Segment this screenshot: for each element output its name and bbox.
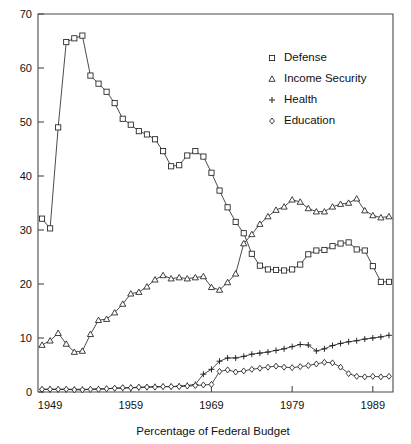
data-point-marker (128, 385, 133, 391)
data-point-marker (257, 350, 263, 356)
data-point-marker (370, 212, 376, 217)
legend-item-education[interactable]: Education (270, 114, 335, 126)
data-point-marker (386, 279, 391, 284)
data-point-marker (128, 122, 133, 127)
y-tick-label: 10 (20, 332, 32, 344)
data-point-marker (289, 344, 295, 350)
data-point-marker (249, 351, 255, 357)
data-point-marker (386, 332, 392, 338)
data-point-marker (354, 247, 359, 252)
data-point-marker (48, 226, 53, 231)
data-point-marker (39, 342, 45, 347)
data-series-layer (39, 33, 392, 393)
data-point-marker (249, 251, 254, 256)
data-point-marker (87, 331, 93, 336)
data-point-marker (362, 207, 368, 212)
data-point-marker (370, 264, 375, 269)
data-point-marker (321, 346, 327, 352)
legend-item-defense[interactable]: Defense (269, 51, 326, 63)
data-point-marker (290, 267, 295, 272)
data-point-marker (161, 384, 166, 390)
data-point-marker (217, 188, 222, 193)
data-point-marker (362, 336, 368, 342)
legend-item-income-security[interactable]: Income Security (269, 72, 367, 84)
y-tick-label: 20 (20, 278, 32, 290)
data-point-marker (185, 153, 190, 158)
data-point-marker (136, 129, 141, 134)
data-point-marker (137, 384, 142, 390)
data-point-marker (298, 262, 303, 267)
data-point-marker (338, 340, 344, 346)
chart-container: 010203040506070 19491959196919791989 Def… (0, 0, 411, 444)
data-point-marker (64, 39, 69, 44)
data-point-marker (96, 81, 101, 86)
data-point-marker (273, 207, 279, 212)
data-point-marker (177, 163, 182, 168)
data-point-marker (225, 205, 230, 210)
data-point-marker (354, 196, 360, 201)
data-point-marker (79, 348, 85, 353)
data-point-marker (249, 366, 254, 372)
data-point-marker (72, 36, 77, 41)
y-tick-label: 0 (26, 386, 32, 398)
data-point-marker (152, 277, 158, 282)
x-tick-label: 1969 (199, 399, 223, 411)
data-point-marker (362, 248, 367, 253)
data-point-marker (200, 273, 206, 278)
data-point-marker (362, 374, 367, 380)
x-tick-label: 1979 (280, 399, 304, 411)
data-point-marker (306, 363, 311, 369)
data-point-marker (354, 338, 360, 344)
line-chart-svg: 010203040506070 19491959196919791989 Def… (0, 0, 411, 444)
y-tick-label: 60 (20, 62, 32, 74)
data-point-marker (241, 231, 246, 236)
data-point-marker (281, 346, 287, 352)
data-point-marker (160, 149, 165, 154)
data-point-marker (193, 149, 198, 154)
legend-label: Defense (284, 51, 327, 63)
data-point-marker (64, 386, 69, 392)
data-point-marker (120, 116, 125, 121)
data-point-marker (201, 382, 206, 388)
data-point-marker (387, 373, 392, 379)
data-point-marker (233, 355, 239, 361)
data-point-marker (354, 373, 359, 379)
data-point-marker (88, 386, 93, 392)
data-point-marker (297, 341, 303, 347)
data-point-marker (144, 132, 149, 137)
data-point-marker (338, 364, 343, 370)
data-point-marker (96, 386, 101, 392)
x-tick-label: 1989 (361, 399, 385, 411)
data-point-marker (145, 384, 150, 390)
data-point-marker (270, 118, 275, 124)
series-line (42, 362, 389, 390)
data-point-marker (80, 33, 85, 38)
data-point-marker (281, 268, 286, 273)
data-point-marker (298, 364, 303, 370)
data-point-marker (257, 263, 262, 268)
data-point-marker (104, 89, 109, 94)
chart-legend: DefenseIncome SecurityHealthEducation (269, 51, 367, 126)
data-point-marker (274, 363, 279, 369)
series-education (40, 359, 392, 393)
data-point-marker (282, 364, 287, 370)
legend-label: Education (284, 114, 335, 126)
data-point-marker (346, 339, 352, 345)
data-point-marker (379, 374, 384, 380)
data-point-marker (265, 349, 271, 355)
data-point-marker (346, 200, 352, 205)
data-point-marker (233, 369, 238, 375)
data-point-marker (153, 384, 158, 390)
data-point-marker (177, 384, 182, 390)
data-point-marker (370, 335, 376, 341)
y-axis-ticks: 010203040506070 (20, 8, 44, 398)
data-point-marker (120, 385, 125, 391)
data-point-marker (386, 213, 392, 218)
legend-item-health[interactable]: Health (269, 93, 317, 105)
data-point-marker (185, 383, 190, 389)
data-point-marker (225, 367, 230, 373)
series-health (39, 332, 392, 392)
y-tick-label: 40 (20, 170, 32, 182)
data-point-marker (329, 343, 335, 349)
data-point-marker (306, 252, 311, 257)
